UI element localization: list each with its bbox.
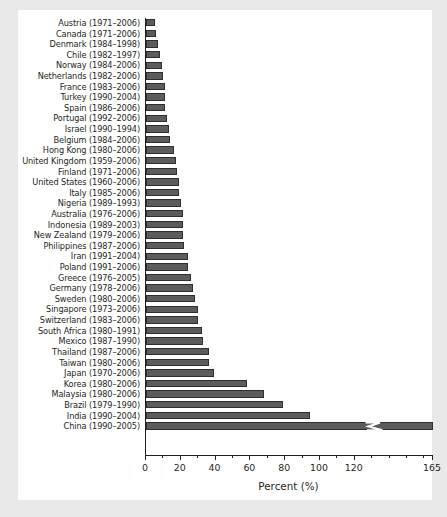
x-tick-label: 40 (209, 462, 221, 473)
x-axis-tick-labels: 020406080100120165 (18, 462, 432, 474)
category-label: Finland (1971–2006) (18, 167, 145, 178)
category-label: Sweden (1980–2006) (18, 294, 145, 305)
bar (146, 72, 163, 79)
bar (146, 348, 209, 355)
category-label: Korea (1980–2006) (18, 379, 145, 390)
bar-row (145, 326, 432, 337)
category-label: United States (1960–2006) (18, 177, 145, 188)
bar (146, 359, 209, 366)
category-label: Canada (1971–2006) (18, 29, 145, 40)
category-label: Portugal (1992–2006) (18, 113, 145, 124)
bar-row (145, 251, 432, 262)
x-tick-minor (197, 455, 198, 458)
x-tick-label: 60 (243, 462, 255, 473)
category-label: Poland (1991–2006) (18, 262, 145, 273)
bar-row (145, 82, 432, 93)
category-label: New Zealand (1979–2006) (18, 230, 145, 241)
category-label: Taiwan (1980–2006) (18, 358, 145, 369)
category-axis-labels: Austria (1971–2006)Canada (1971–2006)Den… (18, 18, 145, 432)
bar-row (145, 145, 432, 156)
bar-row (145, 368, 432, 379)
bar (146, 104, 165, 111)
figure-root: Austria (1971–2006)Canada (1971–2006)Den… (0, 0, 447, 517)
bar (146, 390, 264, 397)
x-tick-minor (406, 455, 407, 458)
x-tick-label: 0 (142, 462, 148, 473)
category-label: United Kingdom (1959–2006) (18, 156, 145, 167)
category-label: Nigeria (1989–1993) (18, 198, 145, 209)
bar-row (145, 177, 432, 188)
bar (146, 125, 169, 132)
bar-row (145, 389, 432, 400)
plot-area (145, 18, 432, 455)
bar-row (145, 135, 432, 146)
bar-row (145, 347, 432, 358)
bar (146, 369, 214, 376)
x-tick-major (180, 455, 181, 460)
bar (146, 83, 165, 90)
bar (146, 337, 203, 344)
x-tick-minor (232, 455, 233, 458)
bar-row (145, 188, 432, 199)
bar (146, 380, 247, 387)
bar (146, 136, 170, 143)
bar (146, 199, 181, 206)
bar-row (145, 29, 432, 40)
category-label: Brazil (1979–1990) (18, 400, 145, 411)
category-label: Turkey (1990–2004) (18, 92, 145, 103)
category-label: Japan (1970–2006) (18, 368, 145, 379)
x-tick-minor (336, 455, 337, 458)
bar (146, 189, 179, 196)
category-label: Hong Kong (1980–2006) (18, 145, 145, 156)
bar (146, 40, 158, 47)
bar (146, 210, 183, 217)
bar-row (145, 113, 432, 124)
category-label: Netherlands (1982–2006) (18, 71, 145, 82)
category-label: India (1990–2004) (18, 411, 145, 422)
bar-rows (145, 18, 432, 432)
bar-row (145, 294, 432, 305)
x-axis-title: Percent (%) (145, 480, 432, 492)
bar-row (145, 209, 432, 220)
bar-row (145, 39, 432, 50)
x-tick-label: 100 (310, 462, 328, 473)
bar-row (145, 336, 432, 347)
bar-row (145, 358, 432, 369)
category-label: Belgium (1984–2006) (18, 135, 145, 146)
x-tick-minor (302, 455, 303, 458)
bar (146, 284, 193, 291)
bar (146, 93, 165, 100)
bar-row (145, 92, 432, 103)
bar-row (145, 315, 432, 326)
x-tick-label: 80 (278, 462, 290, 473)
bar-row (145, 60, 432, 71)
bar (146, 146, 174, 153)
bar (146, 401, 283, 408)
category-label: Norway (1984–2006) (18, 60, 145, 71)
category-label: Italy (1985–2006) (18, 188, 145, 199)
category-label: Iran (1991–2004) (18, 251, 145, 262)
bar-row (145, 379, 432, 390)
category-label: Mexico (1987–1990) (18, 336, 145, 347)
bar-row (145, 50, 432, 61)
x-tick-major (354, 455, 355, 460)
bar-row (145, 167, 432, 178)
bar-row (145, 273, 432, 284)
bar-row (145, 241, 432, 252)
x-tick-minor (371, 455, 372, 458)
bar-row (145, 304, 432, 315)
x-tick-minor (267, 455, 268, 458)
bar-row (145, 103, 432, 114)
bar-row (145, 262, 432, 273)
x-tick-label: 20 (174, 462, 186, 473)
bar-row (145, 400, 432, 411)
category-label: Philippines (1987–2006) (18, 241, 145, 252)
bar (146, 231, 183, 238)
category-label: Chile (1982–1997) (18, 50, 145, 61)
category-label: Israel (1990–1994) (18, 124, 145, 135)
bar (146, 242, 184, 249)
bar (146, 19, 155, 26)
x-tick-major (319, 455, 320, 460)
category-label: Denmark (1984–1998) (18, 39, 145, 50)
bar-row (145, 283, 432, 294)
